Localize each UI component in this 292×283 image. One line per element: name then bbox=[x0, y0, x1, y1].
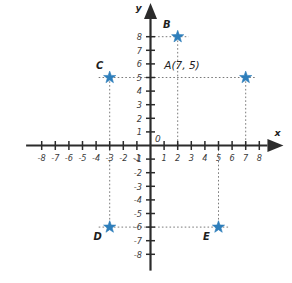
y-tick-label: -6 bbox=[134, 222, 142, 232]
point-labels: A(7, 5)BCDE bbox=[94, 19, 211, 242]
y-tick-label: 8 bbox=[137, 32, 142, 42]
point-label-e: E bbox=[203, 231, 210, 242]
x-tick-label: 6 bbox=[229, 153, 234, 163]
y-tick-label: 6 bbox=[137, 59, 142, 69]
x-axis-arrowhead-icon bbox=[267, 139, 283, 152]
x-tick-label: -8 bbox=[38, 153, 46, 163]
x-tick-label: -7 bbox=[51, 153, 60, 163]
y-tick-label: -1 bbox=[134, 154, 142, 164]
origin-label: 0 bbox=[155, 134, 161, 144]
coordinate-plane-figure: -8-7-6-5-4-3-2-112345678-8-7-6-5-4-3-2-1… bbox=[0, 0, 292, 283]
x-tick-label: 4 bbox=[202, 153, 207, 163]
y-tick-label: -5 bbox=[134, 209, 142, 219]
y-tick-label: -3 bbox=[134, 182, 142, 192]
y-tick-label: 1 bbox=[137, 127, 142, 137]
x-tick-label: -3 bbox=[106, 153, 114, 163]
x-tick-label: -5 bbox=[78, 153, 86, 163]
x-axis-label: x bbox=[273, 127, 281, 138]
x-tick-label: 1 bbox=[161, 153, 166, 163]
star-marker-b bbox=[172, 30, 184, 42]
point-label-b: B bbox=[163, 19, 171, 30]
x-tick-label: -2 bbox=[119, 153, 127, 163]
coordinate-plane-svg: -8-7-6-5-4-3-2-112345678-8-7-6-5-4-3-2-1… bbox=[0, 0, 292, 283]
x-tick-label: 8 bbox=[257, 153, 262, 163]
y-tick-label: -7 bbox=[134, 236, 143, 246]
x-tick-label: 5 bbox=[216, 153, 221, 163]
x-tick-label: 2 bbox=[175, 153, 180, 163]
y-tick-label: 7 bbox=[137, 46, 143, 56]
x-tick-label: -6 bbox=[65, 153, 73, 163]
x-tick-label: 3 bbox=[189, 153, 194, 163]
y-tick-label: 4 bbox=[137, 86, 142, 96]
y-tick-label: -2 bbox=[134, 168, 142, 178]
star-marker-e bbox=[212, 221, 224, 233]
point-label-d: D bbox=[94, 231, 102, 242]
y-tick-label: 5 bbox=[137, 73, 142, 83]
y-axis-label: y bbox=[135, 2, 142, 13]
x-tick-label: -4 bbox=[92, 153, 100, 163]
star-marker-c bbox=[104, 71, 116, 83]
y-tick-label: -8 bbox=[134, 250, 142, 260]
star-marker-d bbox=[104, 221, 116, 233]
point-label-a: A(7, 5) bbox=[163, 59, 199, 71]
x-tick-label: 7 bbox=[243, 153, 249, 163]
y-axis-arrowhead-icon bbox=[144, 3, 157, 19]
star-marker-a bbox=[240, 71, 252, 83]
y-tick-label: 3 bbox=[137, 100, 142, 110]
y-tick-label: 2 bbox=[137, 114, 142, 124]
y-tick-label: -4 bbox=[134, 195, 142, 205]
point-label-c: C bbox=[96, 60, 104, 71]
